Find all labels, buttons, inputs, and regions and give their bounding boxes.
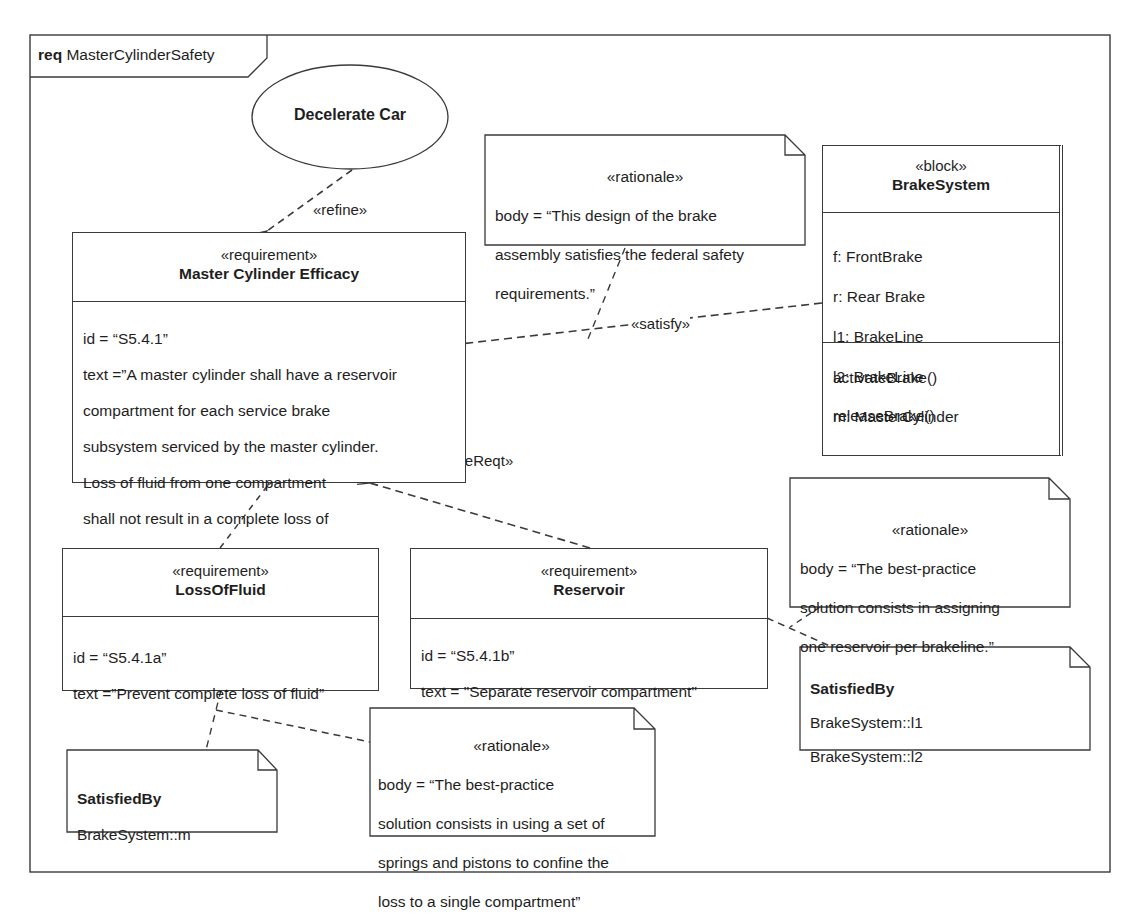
rationale-line: loss to a single compartment” [378, 892, 645, 912]
requirement-body: id = “S5.4.1” text =”A master cylinder s… [73, 302, 465, 590]
requirement-text: text =”Prevent complete loss of fluid” [73, 685, 368, 703]
satisfiedby-item: BrakeSystem::l1 [810, 714, 1080, 731]
rationale-line: solution consists in using a set of [378, 814, 645, 834]
requirement-text-line: compartment for each service brake [83, 402, 455, 420]
block-part: r: Rear Brake [833, 287, 1049, 307]
stereotype-label: «requirement» [73, 245, 465, 264]
stereotype-label: «block» [823, 156, 1059, 175]
frame-name: MasterCylinderSafety [66, 46, 214, 63]
satisfiedby-item: BrakeSystem::m [77, 826, 267, 844]
requirement-master-cylinder-efficacy[interactable]: «requirement» Master Cylinder Efficacy i… [72, 232, 466, 483]
block-operations: activateBrake() releaseBrake() [823, 343, 1059, 452]
stereotype-label: «rationale» [378, 736, 645, 756]
requirement-loss-of-fluid[interactable]: «requirement» LossOfFluid id = “S5.4.1a”… [62, 548, 379, 691]
rationale-line: body = “The best-practice [378, 775, 645, 795]
requirement-name: Reservoir [411, 580, 767, 600]
block-operation: activateBrake() [833, 368, 1049, 387]
requirement-body: id = “S5.4.1a” text =”Prevent complete l… [63, 617, 378, 729]
frame-kind: req [38, 46, 62, 63]
rationale-line: body = “This design of the brake [495, 206, 795, 226]
frame-title: req MasterCylinderSafety [38, 46, 215, 64]
requirement-text-line: Loss of fluid from one compartment [83, 474, 455, 492]
requirement-header: «requirement» Master Cylinder Efficacy [73, 233, 465, 302]
rationale-note-brakeline[interactable]: «rationale» body = “The best-practice so… [790, 478, 1070, 607]
satisfiedby-note-master-cylinder[interactable]: SatisfiedBy BrakeSystem::m [67, 750, 277, 832]
requirement-text-line: subsystem serviced by the master cylinde… [83, 438, 455, 456]
requirement-id: id = “S5.4.1a” [73, 649, 368, 667]
rationale-note-federal[interactable]: «rationale» body = “This design of the b… [485, 135, 805, 245]
stereotype-label: «rationale» [800, 520, 1060, 540]
requirement-name: Master Cylinder Efficacy [73, 264, 465, 284]
satisfiedby-note-brakelines[interactable]: SatisfiedBy BrakeSystem::l1 BrakeSystem:… [800, 647, 1090, 750]
requirement-header: «requirement» LossOfFluid [63, 549, 378, 617]
requirement-id: id = “S5.4.1” [83, 330, 455, 348]
satisfiedby-title: SatisfiedBy [77, 790, 267, 808]
block-brake-system[interactable]: «block» BrakeSystem f: FrontBrake r: Rea… [822, 145, 1063, 456]
rationale-line: solution consists in assigning [800, 598, 1060, 618]
block-parts: f: FrontBrake r: Rear Brake l1: BrakeLin… [823, 213, 1059, 343]
block-part: f: FrontBrake [833, 247, 1049, 267]
rationale-note-springs[interactable]: «rationale» body = “The best-practice so… [370, 708, 655, 836]
refine-label: «refine» [313, 201, 367, 218]
rationale-line: assembly satisfies the federal safety [495, 245, 795, 265]
satisfiedby-item: BrakeSystem::l2 [810, 748, 1080, 765]
requirement-header: «requirement» Reservoir [411, 549, 767, 619]
requirement-text-line: shall not result in a complete loss of [83, 510, 455, 528]
stereotype-label: «requirement» [411, 561, 767, 580]
requirement-reservoir[interactable]: «requirement» Reservoir id = “S5.4.1b” t… [410, 548, 768, 689]
block-name: BrakeSystem [823, 175, 1059, 195]
requirement-name: LossOfFluid [63, 580, 378, 600]
requirement-text-line: text =”A master cylinder shall have a re… [83, 366, 455, 384]
requirement-text: text = "Separate reservoir compartment" [421, 683, 757, 701]
rationale-line: body = “The best-practice [800, 559, 1060, 579]
stereotype-label: «rationale» [495, 167, 795, 187]
stereotype-label: «requirement» [63, 561, 378, 580]
requirement-id: id = “S5.4.1b” [421, 647, 757, 665]
use-case-label: Decelerate Car [252, 106, 448, 124]
rationale-line: springs and pistons to confine the [378, 853, 645, 873]
satisfiedby-title: SatisfiedBy [810, 680, 1080, 697]
block-header: «block» BrakeSystem [823, 146, 1059, 213]
rationale-line: requirements.” [495, 284, 795, 304]
